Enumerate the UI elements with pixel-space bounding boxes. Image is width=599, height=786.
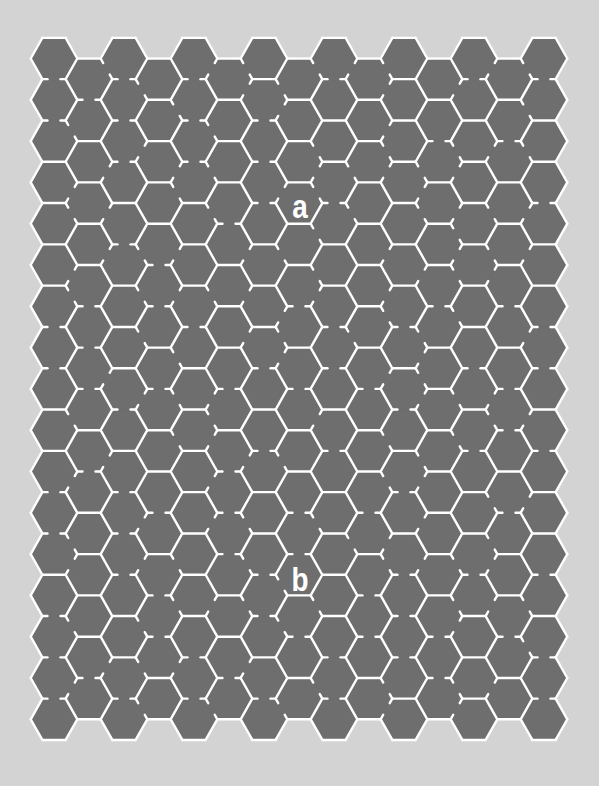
start-label-a: a [292, 189, 308, 223]
maze-board [0, 0, 599, 786]
maze-cells [31, 38, 568, 740]
end-label-b: b [291, 562, 308, 596]
